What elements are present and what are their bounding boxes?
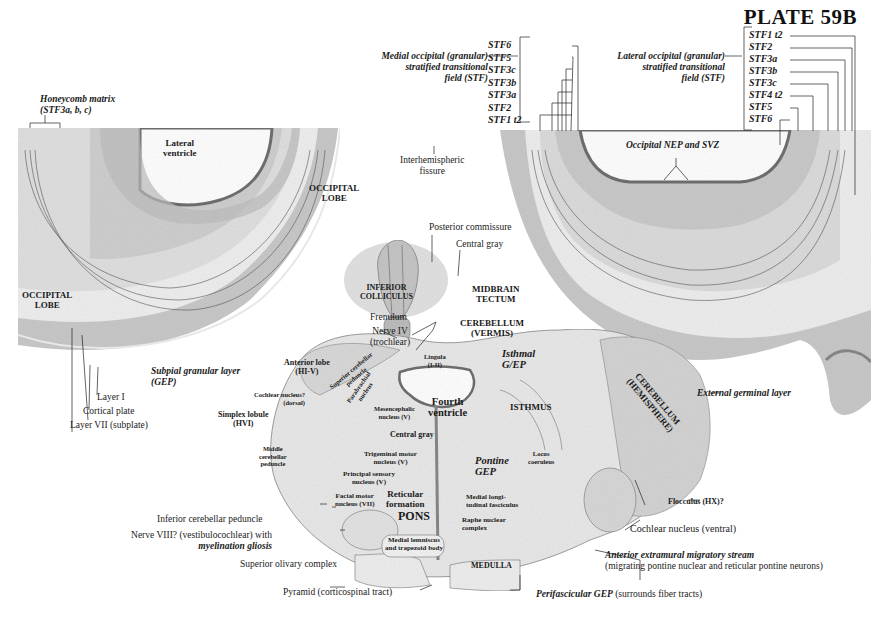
honeycomb-line-2: (STF3a, b, c) <box>40 105 115 116</box>
medulla-label: MEDULLA <box>471 561 512 570</box>
lateral-ventricle-left-label: Lateral ventricle <box>163 138 196 158</box>
anterior-lobe-label: Anterior lobe (HI-V) <box>284 358 330 376</box>
medial-stf-item: STF1 t2 <box>488 114 522 127</box>
facial-motor-label: Facial motor nucleus (VII) <box>335 493 374 508</box>
isthmus-label: ISTHMUS <box>510 402 552 412</box>
lateral-stf-item: STF2 <box>749 41 783 53</box>
vermis-line-1: CEREBELLUM <box>460 318 524 328</box>
occipital-upper-line-2: LOBE <box>309 193 359 203</box>
layer-i-label: Layer I <box>97 392 125 403</box>
medial-stf-list: STF6 STF5 STF3c STF3b STF3a STF2 STF1 t2 <box>488 39 522 127</box>
lateral-stf-item: STF1 t2 <box>749 29 783 41</box>
cochlear-dorsal-line-1: Cochlear nucleus? <box>254 391 305 399</box>
nerve-iv-label: Nerve IV (trochlear) <box>370 326 410 348</box>
lingula-line-2: (I-II) <box>424 361 446 369</box>
lateral-stf-item: STF5 <box>749 101 783 113</box>
central-gray-pons-label: Central gray <box>390 430 434 439</box>
lateral-stf-item: STF3a <box>749 53 783 65</box>
fourth-ventricle-line-2: ventricle <box>428 407 467 418</box>
inferior-colliculus-line-2: COLLICULUS <box>360 292 413 301</box>
layer-vii-subplate-label: Layer VII (subplate) <box>70 420 148 431</box>
lateral-stf-item: STF6 <box>749 113 783 125</box>
left-hemisphere <box>18 128 340 350</box>
occipital-lobe-lower-label: OCCIPITAL LOBE <box>22 290 72 310</box>
subpial-granular-layer-label: Subpial granular layer (GEP) <box>151 366 240 388</box>
subpial-line-2: (GEP) <box>151 377 240 388</box>
lateral-occipital-stf-label: Lateral occipital (granular) stratified … <box>600 51 725 84</box>
medial-stf-line-3: field (STF) <box>358 73 488 84</box>
lateral-ventricle-line-1: Lateral <box>163 138 196 148</box>
raphe-line-2: complex <box>462 525 506 533</box>
medial-stf-line-1: Medial occipital (granular) <box>358 51 488 62</box>
honeycomb-line-1: Honeycomb matrix <box>40 94 115 105</box>
isthmal-gep-label: Isthmal G/EP <box>502 348 535 370</box>
cochlear-dorsal-label: Cochlear nucleus? (dorsal) <box>254 391 305 406</box>
medial-stf-item: STF3a <box>488 89 522 102</box>
lateral-stf-list: STF1 t2 STF2 STF3a STF3b STF3c STF4 t2 S… <box>749 29 783 125</box>
anterior-lobe-line-1: Anterior lobe <box>284 358 330 367</box>
reticular-line-1: Reticular <box>386 489 425 499</box>
nerve-viii-line-1: Nerve VIII? (vestibulocochlear) with <box>128 530 272 541</box>
cochlear-nucleus-ventral-label: Cochlear nucleus (ventral) <box>630 523 736 534</box>
reticular-formation-label: Reticular formation <box>386 489 425 509</box>
cerebellum-vermis-label: CEREBELLUM (VERMIS) <box>460 318 524 338</box>
simplex-lobule-label: Simplex lobule (HVI) <box>218 410 268 428</box>
frenulum-label: Frenulum <box>370 312 407 323</box>
midbrain-tectum-line-2: TECTUM <box>472 294 520 304</box>
isthmal-line-1: Isthmal <box>502 348 535 359</box>
vermis-line-2: (VERMIS) <box>460 328 524 338</box>
middle-peduncle-line-1: Middle <box>259 445 287 453</box>
pontine-gep-line-2: GEP <box>475 466 509 477</box>
brain-section-illustration <box>0 0 871 620</box>
nerve-viii-label: Nerve VIII? (vestibulocochlear) with mye… <box>128 530 272 552</box>
fourth-ventricle-line-1: Fourth <box>428 396 467 407</box>
cochlear-dorsal-line-2: (dorsal) <box>254 399 305 407</box>
lateral-ventricle-line-2: ventricle <box>163 148 196 158</box>
lateral-stf-item: STF3b <box>749 65 783 77</box>
medial-lemniscus-label: Medial lemniscus and trapezoid body <box>385 537 443 552</box>
occipital-lower-line-2: LOBE <box>22 300 72 310</box>
lateral-stf-line-2: stratified transitional <box>600 62 725 73</box>
raphe-nuclear-complex-label: Raphe nuclear complex <box>462 517 506 532</box>
posterior-commissure-label: Posterior commissure <box>429 222 512 233</box>
superior-olivary-complex-label: Superior olivary complex <box>240 559 337 570</box>
pyramid-corticospinal-label: Pyramid (corticospinal tract) <box>283 587 392 598</box>
perifascicular-title: Perifascicular GEP <box>536 589 613 599</box>
plate-title: PLATE 59B <box>744 5 857 30</box>
perifascicular-gep-label: Perifascicular GEP (surrounds fiber trac… <box>536 589 702 600</box>
mesencephalic-nucleus-label: Mesencephalic nucleus (V) <box>374 405 415 420</box>
medial-stf-item: STF3b <box>488 77 522 90</box>
medial-stf-item: STF3c <box>488 64 522 77</box>
mesencephalic-line-2: nucleus (V) <box>374 413 415 421</box>
principal-sensory-label: Principal sensory nucleus (V) <box>343 471 395 486</box>
locus-coeruleus-label: Locus coeruleus <box>528 450 554 465</box>
medial-stf-line-2: stratified transitional <box>358 62 488 73</box>
flocculus-label: Flocculus (HX)? <box>668 496 724 507</box>
interhemispheric-fissure-label: Interhemispheric fissure <box>400 155 464 177</box>
simplex-line-1: Simplex lobule <box>218 410 268 419</box>
interhemispheric-line-2: fissure <box>400 166 464 177</box>
interhemispheric-line-1: Interhemispheric <box>400 155 464 166</box>
locus-line-1: Locus <box>528 450 554 458</box>
occipital-lobe-upper-label: OCCIPITAL LOBE <box>309 183 359 203</box>
lateral-stf-item: STF3c <box>749 77 783 89</box>
external-germinal-layer-label: External germinal layer <box>697 388 791 399</box>
simplex-line-2: (HVI) <box>218 419 268 428</box>
mlf-line-2: tudinal fasciculus <box>466 502 518 510</box>
lemniscus-line-2: and trapezoid body <box>385 545 443 553</box>
lateral-stf-line-3: field (STF) <box>600 73 725 84</box>
occipital-lower-line-1: OCCIPITAL <box>22 290 72 300</box>
medial-stf-item: STF5 <box>488 52 522 65</box>
principal-sensory-line-2: nucleus (V) <box>343 479 395 487</box>
nerve-iv-line-2: (trochlear) <box>370 337 410 348</box>
trigeminal-line-2: nucleus (V) <box>364 459 417 467</box>
pontine-gep-line-1: Pontine <box>475 455 509 466</box>
middle-cerebellar-peduncle-label: Middle cerebellar peduncle <box>259 445 287 468</box>
lingula-label: Lingula (I-II) <box>424 353 446 368</box>
medial-occipital-stf-label: Medial occipital (granular) stratified t… <box>358 51 488 84</box>
pons-label: PONS <box>398 510 430 523</box>
honeycomb-matrix-label: Honeycomb matrix (STF3a, b, c) <box>40 94 115 116</box>
central-gray-midbrain-label: Central gray <box>456 239 503 250</box>
facial-motor-line-2: nucleus (VII) <box>335 501 374 509</box>
medial-stf-item: STF2 <box>488 102 522 115</box>
